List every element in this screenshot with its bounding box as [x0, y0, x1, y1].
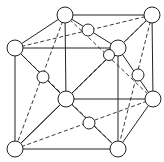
atom-back-face-center — [104, 50, 115, 61]
bond-line-solid — [15, 15, 65, 48]
atom-bottom-back-right — [145, 91, 161, 107]
bond-line-dashed — [118, 15, 152, 149]
bond-line-solid — [118, 99, 153, 149]
atom-bottom-front-right — [110, 141, 126, 157]
atom-front-face-center — [58, 91, 74, 107]
atom-top-front-left — [7, 40, 23, 56]
atom-bottom-face-center — [83, 117, 95, 129]
bond-line-solid — [65, 15, 66, 99]
atom-top-back-right — [144, 7, 160, 23]
atom-bottom-front-left — [7, 141, 23, 157]
fcc-lattice-diagram — [0, 0, 164, 162]
bond-line-solid — [152, 15, 153, 99]
atom-left-face-center — [37, 71, 49, 83]
atom-top-face-center — [82, 24, 94, 36]
atom-right-face-center — [132, 69, 144, 81]
atom-top-back-left — [57, 7, 73, 23]
